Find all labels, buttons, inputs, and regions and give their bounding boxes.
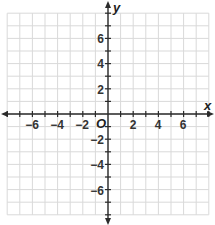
y-tick-label: 4 bbox=[97, 57, 104, 71]
y-tick-label: −2 bbox=[90, 133, 104, 147]
x-tick-label: 6 bbox=[180, 118, 187, 132]
coordinate-plane: x y O −6 −4 −2 2 4 6 6 4 2 −2 −4 −6 bbox=[0, 0, 215, 225]
y-tick-label: 2 bbox=[97, 83, 104, 97]
x-tick-label: −4 bbox=[50, 118, 64, 132]
origin-label: O bbox=[96, 116, 106, 131]
x-tick-label: 4 bbox=[155, 118, 162, 132]
x-tick-label: −2 bbox=[75, 118, 89, 132]
y-tick-label: 6 bbox=[97, 32, 104, 46]
y-tick-label: −4 bbox=[90, 158, 104, 172]
y-axis-down-arrow-icon bbox=[105, 218, 111, 225]
x-tick-label: 2 bbox=[130, 118, 137, 132]
x-axis-label: x bbox=[203, 98, 212, 113]
y-tick-label: −6 bbox=[90, 184, 104, 198]
x-tick-label: −6 bbox=[25, 118, 39, 132]
y-axis-up-arrow-icon bbox=[105, 1, 111, 8]
y-axis-label: y bbox=[112, 0, 121, 15]
